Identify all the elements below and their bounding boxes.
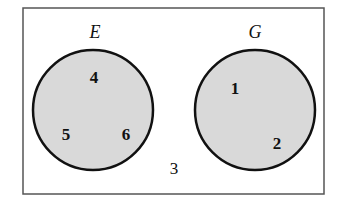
set-g-circle: [195, 50, 315, 170]
element-1: 1: [231, 79, 240, 98]
set-e-label: E: [89, 22, 101, 42]
set-g-label: G: [249, 22, 262, 42]
element-2: 2: [273, 134, 282, 153]
venn-diagram: E G 4 5 6 1 2 3: [0, 0, 342, 205]
element-6: 6: [122, 125, 131, 144]
element-3-outside: 3: [170, 159, 179, 178]
element-5: 5: [62, 125, 71, 144]
element-4: 4: [90, 68, 99, 87]
